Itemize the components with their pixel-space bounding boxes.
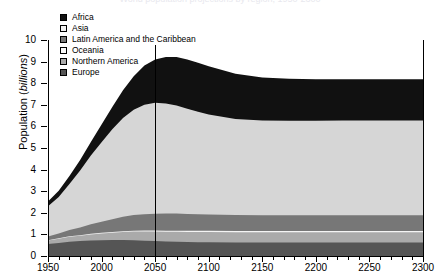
x-tick-minor xyxy=(359,257,360,260)
x-tick-minor xyxy=(134,257,135,260)
x-tick-minor xyxy=(327,257,328,260)
population-projection-chart: World population projections by region, … xyxy=(0,0,440,280)
x-tick-label: 2100 xyxy=(189,263,229,273)
y-tick xyxy=(41,126,47,127)
y-axis-title-plain: Population ( xyxy=(17,91,29,150)
legend-swatch-icon xyxy=(60,47,67,54)
x-tick-minor xyxy=(177,257,178,260)
y-tick xyxy=(41,170,47,171)
x-tick-minor xyxy=(284,257,285,260)
x-tick-label: 2300 xyxy=(403,263,440,273)
legend-item-label: Asia xyxy=(72,24,89,33)
y-tick xyxy=(41,191,47,192)
y-tick xyxy=(41,62,47,63)
x-tick-minor xyxy=(305,257,306,260)
x-tick-minor xyxy=(144,257,145,260)
y-axis-line xyxy=(48,40,49,257)
y-tick xyxy=(41,256,47,257)
legend-item-label: Africa xyxy=(72,13,94,22)
x-tick-minor xyxy=(112,257,113,260)
x-tick-label: 2050 xyxy=(135,263,175,273)
x-tick-minor xyxy=(219,257,220,260)
legend-swatch-icon xyxy=(60,36,67,43)
x-tick-label: 1950 xyxy=(28,263,68,273)
y-tick xyxy=(41,105,47,106)
x-tick-minor xyxy=(391,257,392,260)
legend-item-label: Europe xyxy=(72,68,99,77)
y-tick xyxy=(41,213,47,214)
x-tick-minor xyxy=(198,257,199,260)
x-tick-minor xyxy=(273,257,274,260)
x-tick-minor xyxy=(241,257,242,260)
x-tick-label: 2150 xyxy=(242,263,282,273)
y-tick xyxy=(41,148,47,149)
legend-item[interactable]: Europe xyxy=(60,67,196,78)
x-tick-minor xyxy=(230,257,231,260)
x-tick-minor xyxy=(166,257,167,260)
chart-legend: AfricaAsiaLatin America and the Caribbea… xyxy=(60,12,196,78)
legend-item[interactable]: Oceania xyxy=(60,45,196,56)
legend-item[interactable]: Northern America xyxy=(60,56,196,67)
x-tick-label: 2000 xyxy=(82,263,122,273)
plot-right-border xyxy=(423,40,424,257)
y-axis-title-italic: billions xyxy=(17,58,29,92)
y-tick xyxy=(41,234,47,235)
legend-swatch-icon xyxy=(60,69,67,76)
y-tick-label: 2 xyxy=(0,208,36,218)
area-band-europe xyxy=(48,240,423,256)
legend-swatch-icon xyxy=(60,25,67,32)
legend-swatch-icon xyxy=(60,58,67,65)
y-tick-label: 1 xyxy=(0,229,36,239)
x-tick-minor xyxy=(59,257,60,260)
x-tick-minor xyxy=(123,257,124,260)
y-axis-title: Population (billions) xyxy=(17,37,29,167)
y-tick-label: 0 xyxy=(0,251,36,261)
x-tick-minor xyxy=(91,257,92,260)
y-tick xyxy=(41,83,47,84)
x-axis-line xyxy=(48,256,424,257)
x-tick-label: 2250 xyxy=(349,263,389,273)
x-tick-minor xyxy=(252,257,253,260)
x-tick-minor xyxy=(69,257,70,260)
legend-item[interactable]: Latin America and the Caribbean xyxy=(60,34,196,45)
legend-swatch-icon xyxy=(60,14,67,21)
legend-item[interactable]: Asia xyxy=(60,23,196,34)
y-axis-title-tail: ) xyxy=(17,54,29,58)
x-tick-minor xyxy=(80,257,81,260)
x-tick-minor xyxy=(380,257,381,260)
legend-item-label: Oceania xyxy=(72,46,104,55)
x-tick-minor xyxy=(337,257,338,260)
legend-item-label: Northern America xyxy=(72,57,138,66)
y-tick-label: 3 xyxy=(0,186,36,196)
x-tick-minor xyxy=(412,257,413,260)
y-tick xyxy=(41,40,47,41)
legend-item[interactable]: Africa xyxy=(60,12,196,23)
x-tick-minor xyxy=(402,257,403,260)
x-tick-minor xyxy=(294,257,295,260)
x-tick-minor xyxy=(187,257,188,260)
legend-item-label: Latin America and the Caribbean xyxy=(72,35,196,44)
x-tick-label: 2200 xyxy=(296,263,336,273)
x-tick-minor xyxy=(348,257,349,260)
